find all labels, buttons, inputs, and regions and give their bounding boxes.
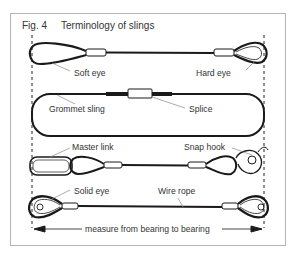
label-snap-hook: Snap hook: [184, 143, 225, 152]
label-wire-rope: Wire rope: [158, 187, 195, 196]
label-splice: Splice: [189, 105, 212, 114]
label-master-link: Master link: [72, 143, 114, 152]
label-grommet-sling: Grommet sling: [49, 105, 105, 114]
sling-diagram: [0, 0, 301, 253]
label-measure: measure from bearing to bearing: [85, 225, 210, 234]
bearing-lines: [32, 35, 264, 228]
master-link-sling: [30, 147, 268, 175]
label-soft-eye: Soft eye: [74, 69, 106, 78]
solid-eye-sling: [29, 196, 268, 217]
soft-hard-eye-sling: [30, 43, 267, 64]
label-hard-eye: Hard eye: [196, 69, 231, 78]
label-solid-eye: Solid eye: [74, 187, 109, 196]
